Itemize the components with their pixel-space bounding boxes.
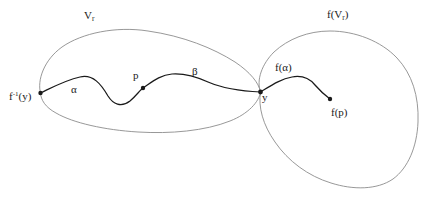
label-beta: β: [192, 66, 198, 77]
label-preimage-point: f-1(y): [9, 91, 31, 102]
label-domain-region: Vr: [84, 10, 94, 21]
label-image-region-subscript: r: [342, 13, 345, 22]
diagram-canvas: Vr f(Vr) f-1(y) α p β y f(α) f(p): [0, 0, 427, 202]
label-domain-region-base: V: [84, 9, 92, 21]
label-preimage-point-suffix: (y): [19, 90, 32, 102]
label-point-y: y: [262, 92, 268, 103]
label-alpha: α: [71, 84, 77, 95]
point-f-of-p: [328, 97, 332, 101]
label-image-region: f(Vr): [327, 9, 348, 20]
label-f-of-p: f(p): [331, 107, 348, 118]
label-image-region-prefix: f(V: [327, 8, 342, 20]
point-f-inverse-of-y: [38, 91, 42, 95]
label-image-region-suffix: ): [345, 8, 349, 20]
label-point-p: p: [133, 70, 139, 81]
f-alpha-curve: [261, 76, 331, 99]
label-preimage-point-superscript: -1: [13, 90, 19, 98]
point-p: [141, 86, 145, 90]
label-f-alpha: f(α): [275, 62, 292, 73]
left-region-outline: [40, 29, 261, 132]
diagram-graphic: [0, 0, 427, 202]
